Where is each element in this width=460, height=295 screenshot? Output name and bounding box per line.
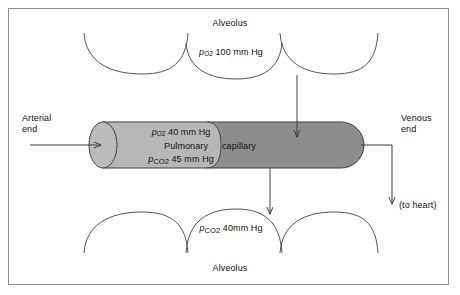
blood-outflow-arrow	[361, 145, 392, 204]
alveolus-bottom-label: Alveolus	[213, 263, 248, 274]
po2-units: mm Hg	[233, 47, 263, 57]
arterial-end-line1: Arterial	[22, 113, 51, 123]
alveolus-top-label: Alveolus	[213, 18, 248, 29]
cap-pco2-subscript: CO2	[153, 157, 169, 166]
cap-po2-units: mm Hg	[181, 127, 211, 137]
to-heart-label: (to heart)	[399, 200, 437, 211]
cap-po2-value: 40	[168, 127, 178, 137]
venous-end-line1: Venous	[401, 113, 432, 123]
figure-canvas: Alveolus pO2 100 mm Hg Alveolus pCO2 40m…	[0, 0, 460, 295]
capillary-label: capillary	[222, 141, 256, 152]
capillary-pco2-label: pCO2 45 mm Hg	[148, 154, 214, 167]
cap-po2-subscript: O2	[157, 130, 166, 137]
alveolar-po2-label: pO2 100 mm Hg	[199, 47, 263, 59]
pco2-units: mm Hg	[233, 223, 263, 233]
alveolar-pco2-label: pCO2 40mm Hg	[199, 223, 262, 236]
arterial-end-label: Arterialend	[22, 113, 51, 135]
pulmonary-label: Pulmonary	[164, 141, 208, 152]
arterial-end-line2: end	[22, 124, 37, 134]
cap-pco2-units: mm Hg	[184, 154, 214, 164]
capillary-po2-label: pO2 40 mm Hg	[152, 127, 211, 139]
po2-subscript: O2	[204, 50, 213, 57]
cap-pco2-value: 45	[172, 154, 182, 164]
pco2-value: 40	[223, 223, 233, 233]
venous-end-label: Venousend	[401, 113, 432, 135]
venous-end-line2: end	[401, 124, 416, 134]
pco2-subscript: CO2	[205, 226, 221, 235]
po2-value: 100	[215, 47, 230, 57]
